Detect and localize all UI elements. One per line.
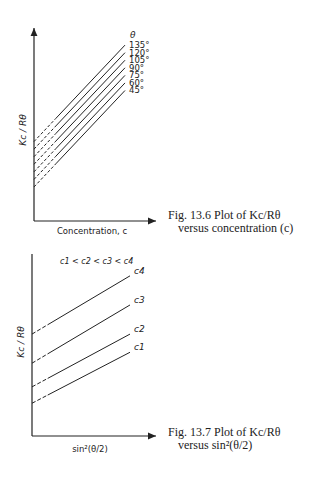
fig2-concentration-labels: c4c3c2c1 — [134, 266, 145, 352]
fig2-series-label: c3 — [134, 295, 145, 305]
fig1-line-solid — [56, 90, 125, 163]
fig1-line-solid — [56, 45, 125, 118]
fig2-line-dashed — [32, 395, 48, 403]
fig2-line-solid — [48, 334, 130, 378]
fig2-caption-line2: versus sin²(θ/2) — [168, 439, 318, 452]
fig2-x-label: sin²(θ/2) — [72, 444, 108, 454]
fig2-series-label: c2 — [134, 324, 145, 334]
fig1-line-solid — [56, 83, 125, 156]
fig2-y-label: Kc / Rθ — [16, 326, 26, 358]
figure-canvas: θ 135°120°105°90°75°60°45° Kc / Rθ Conce… — [0, 0, 320, 480]
fig2-line-solid — [48, 305, 130, 354]
fig1-caption-line2: versus concentration (c) — [168, 222, 318, 235]
fig1-line-solid — [56, 60, 125, 133]
fig1-caption: Fig. 13.6 Plot of Kc/Rθ versus concentra… — [168, 209, 318, 235]
fig2-line-solid — [48, 352, 130, 395]
fig1-angle-label: 45° — [129, 85, 144, 95]
fig2-line-dashed — [32, 378, 48, 386]
fig1-line-solid — [56, 68, 125, 141]
fig1-chart: θ 135°120°105°90°75°60°45° Kc / Rθ Conce… — [18, 28, 156, 236]
fig2-caption: Fig. 13.7 Plot of Kc/Rθ versus sin²(θ/2) — [168, 426, 318, 452]
fig1-x-label: Concentration, c — [57, 226, 128, 236]
fig1-series-lines — [34, 45, 125, 187]
fig1-angle-labels: 135°120°105°90°75°60°45° — [129, 40, 149, 95]
fig2-line-dashed — [32, 354, 48, 363]
fig2-series-label: c4 — [134, 266, 145, 276]
fig2-line-dashed — [32, 325, 48, 334]
fig1-y-label: Kc / Rθ — [18, 114, 28, 146]
fig1-line-solid — [56, 75, 125, 148]
fig2-series-lines — [32, 276, 130, 403]
fig2-line-solid — [48, 276, 130, 325]
fig2-chart: c4c3c2c1 c1 < c2 < c3 < c4 Kc / Rθ sin²(… — [16, 254, 156, 454]
fig1-legend-title: θ — [130, 30, 136, 40]
fig2-series-label: c1 — [134, 342, 145, 352]
fig2-annotation: c1 < c2 < c3 < c4 — [60, 257, 133, 266]
fig1-line-solid — [56, 53, 125, 126]
